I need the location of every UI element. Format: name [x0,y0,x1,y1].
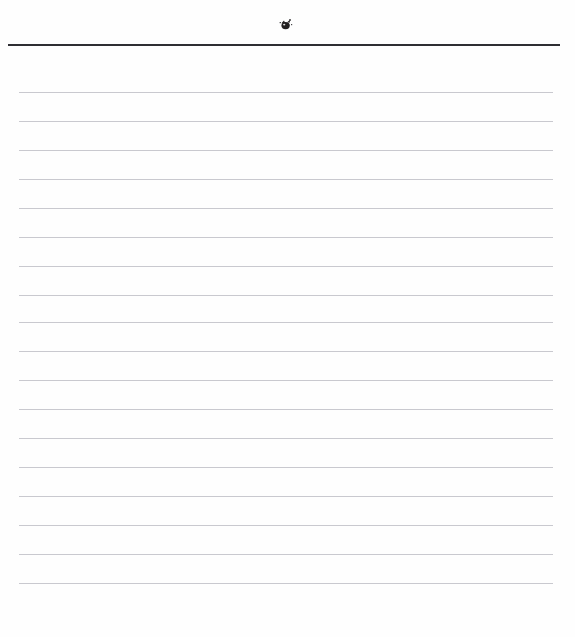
ruled-line [19,92,553,93]
ruled-line [19,525,553,526]
ruled-line [19,295,553,296]
ruled-line [19,150,553,151]
ruled-line [19,467,553,468]
ruled-line [19,409,553,410]
ruled-lines-group [0,0,575,637]
ruled-line [19,322,553,323]
notepad-page [0,0,575,637]
ruled-line [19,237,553,238]
ruled-line [19,351,553,352]
ruled-line [19,380,553,381]
ruled-line [19,121,553,122]
ruled-line [19,583,553,584]
ruled-line [19,179,553,180]
ruled-line [19,438,553,439]
ruled-line [19,266,553,267]
ruled-line [19,496,553,497]
ruled-line [19,208,553,209]
ruled-line [19,554,553,555]
